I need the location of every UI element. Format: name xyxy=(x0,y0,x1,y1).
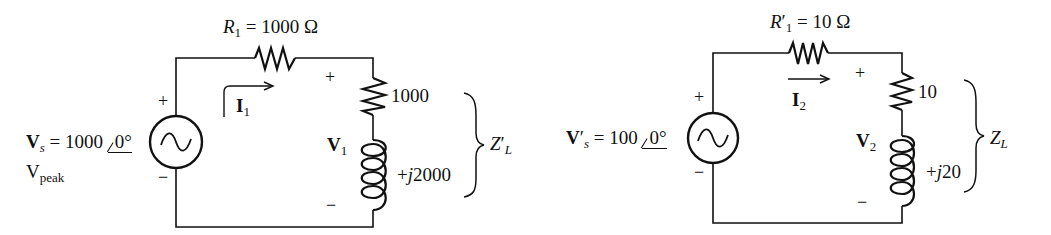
load-resistance-1000-label: 1000 xyxy=(391,86,429,105)
source-left-minus: − xyxy=(158,168,168,186)
load-resistance-10-label: 10 xyxy=(918,82,937,101)
brace-right-icon xyxy=(964,80,984,192)
current-i2-label: I2 xyxy=(792,90,806,112)
impedance-zl-prime-label: Z′L xyxy=(490,134,512,156)
sine-wave-left-icon xyxy=(161,133,191,150)
right-circuit-wiring xyxy=(688,43,984,223)
sine-wave-right-icon xyxy=(698,129,728,146)
load-left-minus: − xyxy=(326,196,336,214)
load-reactance-j2000-label: +j2000 xyxy=(397,165,451,184)
left-circuit-wiring xyxy=(150,48,484,227)
impedance-zl-label: ZL xyxy=(990,128,1008,150)
resistor-r1-label: R1 = 1000 Ω xyxy=(223,17,318,39)
voltage-v2-label: V2 xyxy=(856,131,876,153)
resistor-r1-prime-label: R′1 = 10 Ω xyxy=(770,12,850,34)
circuit-diagrams xyxy=(0,0,1051,235)
source-left-plus: + xyxy=(158,92,168,110)
load-reactance-j20-label: +j20 xyxy=(926,162,961,181)
load-right-plus: + xyxy=(855,64,865,82)
source-right-minus: − xyxy=(694,163,704,181)
load-resistor-10-icon xyxy=(892,73,912,110)
source-right-label: V′s = 100 0° xyxy=(566,128,667,150)
right-bottom-wire xyxy=(713,163,902,223)
resistor-r1-icon xyxy=(255,48,295,69)
load-right-minus: − xyxy=(857,193,867,211)
source-right-plus: + xyxy=(694,88,704,106)
left-bottom-wire xyxy=(176,168,373,227)
load-left-plus: + xyxy=(325,68,335,86)
inductor-j20-icon xyxy=(891,136,914,206)
current-i1-label: I1 xyxy=(236,96,250,118)
load-resistor-1000-icon xyxy=(363,78,385,115)
source-left-unit: Vpeak xyxy=(26,162,64,184)
source-left-label: Vs = 1000 0° xyxy=(26,132,132,154)
brace-left-icon xyxy=(464,93,484,197)
right-top-left-wire xyxy=(713,53,789,113)
resistor-r1-prime-icon xyxy=(789,43,828,64)
inductor-j2000-icon xyxy=(362,140,386,210)
voltage-v1-label: V1 xyxy=(327,135,347,157)
